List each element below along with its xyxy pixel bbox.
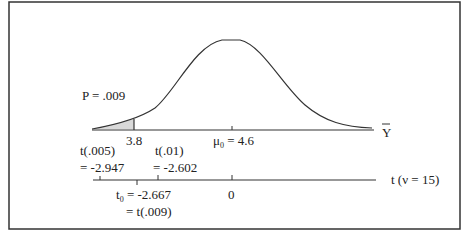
t01-label-line2: = -2.602	[153, 160, 197, 175]
ybar-axis-label: Y	[382, 125, 392, 140]
t005-label-line2: = -2.947	[80, 160, 125, 175]
t0-label: t0 = -2.667	[116, 187, 172, 204]
t0-equivalence-label: = t(.009)	[126, 204, 172, 219]
t-axis-label: t (ν = 15)	[391, 172, 439, 187]
t01-label-line1: t(.01)	[155, 143, 184, 158]
t-zero-label: 0	[228, 187, 235, 202]
t-test-diagram: P = .009 3.8 μ0 = 4.6 Y t(.005) = -2.947…	[0, 0, 468, 240]
mu-label: μ0 = 4.6	[213, 133, 255, 150]
p-value-label: P = .009	[82, 88, 125, 103]
figure-frame	[9, 2, 460, 229]
t005-label-line1: t(.005)	[80, 143, 115, 158]
critical-value-label: 3.8	[126, 133, 142, 148]
normal-curve	[92, 40, 372, 129]
